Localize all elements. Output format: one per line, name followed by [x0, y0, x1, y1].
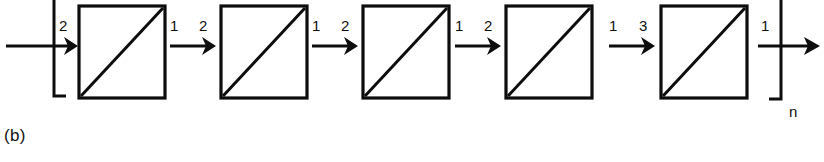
output-arrow: [758, 37, 820, 55]
repeat-subscript-label: n: [789, 103, 797, 120]
stage-box-2: [221, 6, 307, 98]
output-bracket: [769, 0, 781, 99]
input-arrow-label: 2: [59, 17, 68, 34]
stage-box-1: [79, 6, 165, 98]
stage-box-5: [661, 6, 747, 98]
figure-caption: (b): [4, 126, 26, 146]
connector-1-left-label: 1: [170, 17, 179, 34]
cascade-diagram: 2 1 2 1 2: [0, 0, 824, 162]
stage-box-4: [506, 6, 592, 98]
connector-3-right-label: 2: [484, 17, 493, 34]
stage-box-3: [363, 6, 449, 98]
connector-3-left-label: 1: [455, 17, 464, 34]
connector-4-right-label: 3: [639, 17, 648, 34]
connector-arrow-1: [170, 37, 216, 55]
figure-container: 2 1 2 1 2: [0, 0, 824, 162]
input-bracket: [54, 0, 66, 96]
input-arrow: [6, 37, 78, 55]
connector-arrow-3: [455, 37, 501, 55]
connector-4-left-label: 1: [609, 17, 618, 34]
connector-2-left-label: 1: [312, 17, 321, 34]
connector-arrow-2: [312, 37, 358, 55]
output-arrow-label: 1: [761, 17, 770, 34]
connector-arrow-4: [609, 37, 655, 55]
connector-2-right-label: 2: [341, 17, 350, 34]
connector-1-right-label: 2: [199, 17, 208, 34]
